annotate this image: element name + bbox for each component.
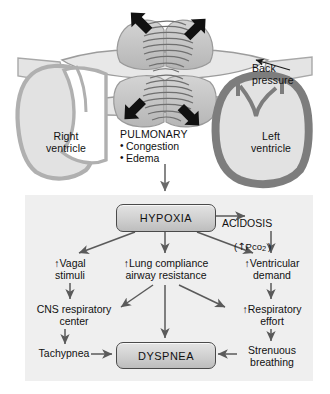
- node-acidosis-title: ACIDOSIS: [222, 217, 308, 229]
- node-dyspnea[interactable]: DYSPNEA: [116, 342, 216, 369]
- pulmonary-list: Congestion Edema: [120, 140, 215, 164]
- edge-lung-respiratory: [179, 285, 225, 307]
- node-strenuous-breathing: Strenuous breathing: [239, 344, 305, 368]
- node-ventricular-demand: ↑Ventricular demand: [235, 257, 309, 281]
- list-item: Congestion: [120, 140, 215, 152]
- right-ventricle-label: Right ventricle: [35, 131, 97, 154]
- node-cns-respiratory-center: CNS respiratory center: [31, 303, 117, 327]
- node-respiratory-effort: ↑Respiratory effort: [233, 303, 311, 327]
- node-hypoxia[interactable]: HYPOXIA: [116, 204, 216, 232]
- edge-hypoxia-vagal: [79, 232, 135, 253]
- pulmonary-heading: PULMONARY: [120, 128, 215, 140]
- pulmonary-findings: PULMONARY Congestion Edema: [120, 128, 215, 164]
- dyspnea-flowchart-panel: HYPOXIA DYSPNEA ACIDOSIS (↑Pco2 ) ↑Vagal…: [25, 195, 313, 381]
- node-vagal-stimuli: ↑Vagal stimuli: [39, 257, 101, 281]
- edge-lung-cns: [121, 285, 153, 307]
- list-item: Edema: [120, 152, 215, 164]
- back-pressure-label: Back pressure: [252, 62, 322, 86]
- right-ventricle-figure: [18, 66, 106, 179]
- node-tachypnea: Tachypnea: [33, 347, 95, 359]
- heart-lungs-svg: [0, 0, 330, 196]
- left-ventricle-label: Left ventricle: [240, 131, 302, 154]
- node-lung-compliance: ↑Lung compliance airway resistance: [110, 257, 222, 281]
- diagram-root: Right ventricle Left ventricle Back pres…: [0, 0, 330, 394]
- node-acidosis-subscript: (↑Pco2 ): [222, 241, 308, 255]
- anatomy-illustration: Right ventricle Left ventricle Back pres…: [0, 0, 330, 196]
